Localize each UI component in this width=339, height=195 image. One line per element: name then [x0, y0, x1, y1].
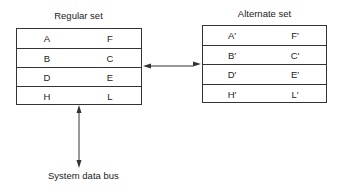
system-data-bus-label: System data bus — [48, 170, 119, 181]
horizontal-double-arrow-icon — [143, 62, 201, 69]
connection-arrows — [0, 0, 339, 195]
vertical-double-arrow-icon — [77, 105, 82, 168]
